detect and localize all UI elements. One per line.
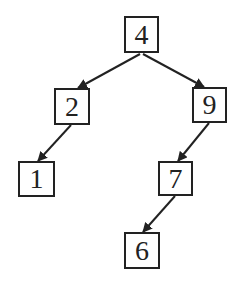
edge-9-to-7-arrow [178,123,209,161]
tree-node-6: 6 [124,232,160,269]
tree-edges [0,0,238,283]
tree-node-2: 2 [54,88,90,125]
edge-4-to-9-arrow [143,54,204,87]
edge-4-to-2-arrow [78,54,140,88]
tree-node-root-4: 4 [124,16,159,53]
tree-node-9: 9 [192,87,227,123]
binary-tree-diagram: 4 2 9 1 7 6 [0,0,238,283]
edge-7-to-6-arrow [143,196,175,232]
tree-node-1: 1 [18,161,55,197]
edge-2-to-1-arrow [38,125,71,161]
tree-node-7: 7 [158,161,193,196]
